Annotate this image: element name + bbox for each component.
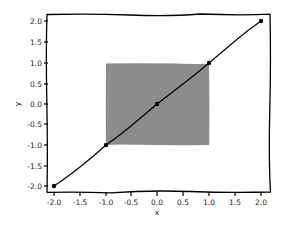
- y-axis-label: y: [13, 101, 22, 106]
- x-tick-label: 1.5: [229, 198, 241, 207]
- y-tick-label: 0.0: [30, 100, 42, 109]
- x-axis-label: x: [155, 208, 160, 217]
- x-tick-label: 2.0: [255, 198, 267, 207]
- x-tick-label: 1.0: [203, 198, 215, 207]
- x-tick-label: 0.0: [151, 198, 163, 207]
- y-tick-label: 2.0: [30, 17, 42, 26]
- data-point: [207, 61, 211, 65]
- x-tick-label: -1.0: [99, 198, 114, 207]
- y-tick-label: 1.5: [30, 38, 42, 47]
- y-tick-label: -2.0: [27, 182, 42, 191]
- data-point: [155, 102, 159, 106]
- x-tick-label: -2.0: [47, 198, 62, 207]
- y-axis: 2.0 1.5 1.0 0.5 0.0 -0.5 -1.0 -1.5 -2.0: [27, 17, 48, 191]
- x-tick-label: -0.5: [124, 198, 139, 207]
- y-tick-label: -1.5: [27, 162, 42, 171]
- y-tick-label: 1.0: [30, 59, 42, 68]
- x-tick-label: -1.5: [73, 198, 88, 207]
- y-tick-label: 0.5: [30, 80, 42, 89]
- x-tick-label: 0.5: [177, 198, 189, 207]
- y-tick-label: -0.5: [27, 120, 42, 129]
- data-point: [104, 143, 108, 147]
- data-point: [52, 184, 56, 188]
- chart: 2.0 1.5 1.0 0.5 0.0 -0.5 -1.0 -1.5 -2.0 …: [0, 0, 286, 230]
- x-axis: -2.0 -1.5 -1.0 -0.5 0.0 0.5 1.0 1.5 2.0: [47, 192, 268, 207]
- data-point: [259, 19, 263, 23]
- y-tick-label: -1.0: [27, 141, 42, 150]
